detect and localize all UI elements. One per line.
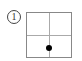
horizontal-center-line <box>27 35 71 36</box>
circled-number-label: 1 <box>7 10 21 24</box>
diagram-figure: 1 <box>0 0 82 61</box>
point-dot-icon <box>46 45 52 51</box>
two-by-two-grid <box>26 12 72 58</box>
